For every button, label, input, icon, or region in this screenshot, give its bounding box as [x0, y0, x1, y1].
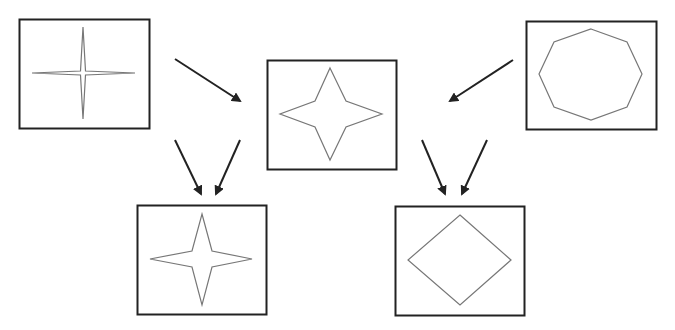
- result-right-node: [396, 207, 525, 316]
- source-right-node: [527, 22, 657, 130]
- intermediate-node: [268, 61, 397, 170]
- arrow-to-result-left-b: [216, 140, 240, 194]
- source-right-box: [527, 22, 657, 130]
- source-left-box: [20, 20, 150, 129]
- intermediate-box: [268, 61, 397, 170]
- result-right-box: [396, 207, 525, 316]
- diagram-canvas: [0, 0, 675, 330]
- arrow-source-left-to-intermediate: [175, 59, 240, 101]
- result-left-node: [138, 206, 267, 315]
- source-left-node: [20, 20, 150, 129]
- arrow-to-result-left-a: [175, 140, 201, 194]
- arrow-to-result-right-b: [462, 140, 487, 194]
- arrow-source-right-to-intermediate: [450, 60, 513, 101]
- arrow-to-result-right-a: [422, 140, 445, 194]
